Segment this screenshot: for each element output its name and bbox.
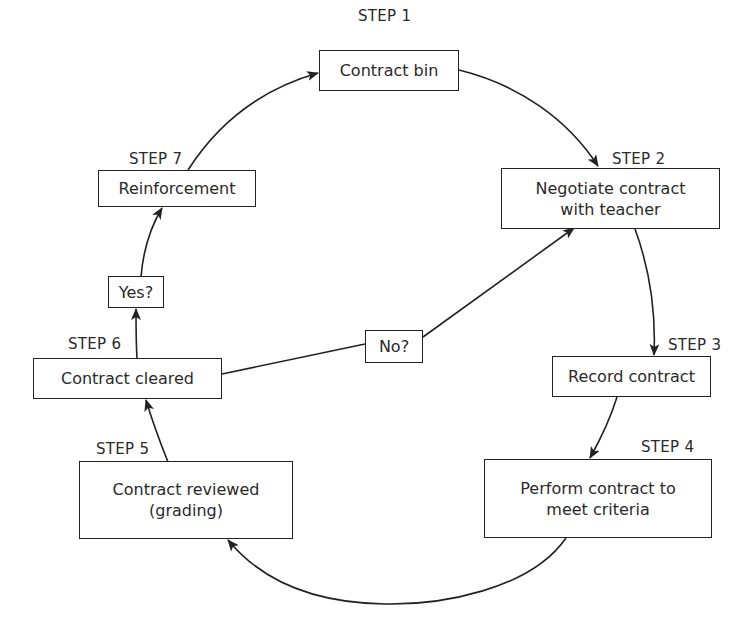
edge-step2-to-step3: [635, 229, 654, 355]
step7-reinforcement-box: Reinforcement: [98, 170, 256, 207]
edge-yes-to-step7: [141, 208, 162, 277]
step6-contract-cleared-box: Contract cleared: [33, 358, 222, 399]
step7-label: STEP 7: [129, 151, 182, 167]
step2-text-line2: with teacher: [560, 199, 660, 220]
step5-text-line2: (grading): [149, 500, 223, 521]
step6-label: STEP 6: [68, 336, 121, 352]
step1-label: STEP 1: [358, 8, 411, 24]
step4-perform-contract-box: Perform contract to meet criteria: [484, 459, 712, 538]
edge-step3-to-step4: [590, 397, 617, 458]
step1-text: Contract bin: [340, 60, 439, 81]
step4-text-line2: meet criteria: [546, 499, 649, 520]
edge-step6-to-yes: [136, 309, 137, 358]
step4-text-line1: Perform contract to: [520, 478, 676, 499]
edge-no-to-step2: [423, 228, 574, 337]
step3-text: Record contract: [568, 366, 695, 387]
decision-yes-box: Yes?: [108, 276, 164, 308]
edge-step7-to-step1: [188, 73, 318, 170]
step1-contract-bin-box: Contract bin: [319, 50, 459, 91]
decision-no-text: No?: [379, 336, 409, 357]
step2-negotiate-contract-box: Negotiate contract with teacher: [501, 168, 720, 229]
step3-label: STEP 3: [668, 337, 721, 353]
step2-label: STEP 2: [612, 151, 665, 167]
step5-label: STEP 5: [96, 441, 149, 457]
step3-record-contract-box: Record contract: [552, 356, 711, 397]
step5-text-line1: Contract reviewed: [113, 479, 260, 500]
contract-cycle-diagram: STEP 1 Contract bin STEP 2 Negotiate con…: [0, 0, 748, 623]
decision-no-box: No?: [365, 330, 423, 363]
decision-yes-text: Yes?: [119, 282, 153, 303]
step2-text-line1: Negotiate contract: [536, 178, 686, 199]
step6-text: Contract cleared: [61, 368, 194, 389]
step4-label: STEP 4: [641, 439, 694, 455]
step5-contract-reviewed-box: Contract reviewed (grading): [79, 461, 293, 539]
edge-step1-to-step2: [459, 70, 598, 166]
edge-step6-to-no: [222, 344, 365, 374]
step7-text: Reinforcement: [119, 178, 236, 199]
edge-step4-to-step5: [228, 538, 566, 604]
